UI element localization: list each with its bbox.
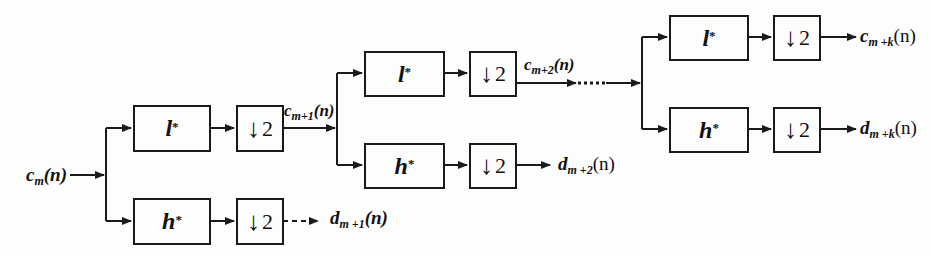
approx-output-label-k: cm +k(n) [860,26,916,48]
conjugate-mark: * [405,64,412,80]
label-var: c [524,55,532,74]
label-var: d [558,153,568,174]
filter-symbol: h [395,153,408,180]
lowpass-filter-box-k: l* [669,15,749,61]
downsample-factor: 2 [799,117,810,143]
lowpass-filter-box-2: l* [364,51,445,97]
label-arg: (n) [554,55,575,74]
down-arrow-icon: ↓ [247,114,260,144]
label-arg: (n) [894,25,916,46]
highpass-filter-box-1: h* [133,198,211,245]
downsample-box-low-2: ↓2 [469,51,517,97]
label-arg: (n) [314,101,335,120]
approx-output-label-1: cm+1(n) [284,102,335,122]
conjugate-mark: * [709,28,716,44]
filter-bank-diagram: cm(n) l* ↓2 h* ↓2 cm+1(n) dm +1(n) l* ↓2… [0,0,933,255]
filter-symbol: l [165,115,172,142]
downsample-factor: 2 [262,209,273,235]
downsample-factor: 2 [799,25,810,51]
downsample-box-low-k: ↓2 [773,15,821,61]
down-arrow-icon: ↓ [784,115,797,145]
conjugate-mark: * [172,119,179,135]
label-arg: (n) [593,153,615,174]
filter-symbol: h [162,208,175,235]
downsample-factor: 2 [262,116,273,142]
label-sub: m+2 [532,63,554,77]
highpass-filter-box-k: h* [669,107,749,153]
label-var: d [860,117,870,138]
label-sub: m +k [870,127,895,141]
conjugate-mark: * [408,156,415,172]
label-var: d [330,207,340,228]
filter-symbol: l [702,25,709,52]
conjugate-mark: * [712,120,719,136]
label-arg: (n) [365,207,388,228]
downsample-box-low-1: ↓2 [236,105,284,152]
filter-symbol: h [699,117,712,144]
conjugate-mark: * [175,212,182,228]
down-arrow-icon: ↓ [480,59,493,89]
label-sub: m+1 [292,109,314,123]
downsample-box-high-1: ↓2 [236,198,284,245]
detail-output-label-2: dm +2(n) [558,154,615,176]
filter-symbol: l [398,61,405,88]
highpass-filter-box-2: h* [364,143,445,189]
label-sub: m +2 [568,163,593,177]
down-arrow-icon: ↓ [784,23,797,53]
detail-output-label-1: dm +1(n) [330,208,388,230]
downsample-factor: 2 [495,61,506,87]
detail-output-label-k: dm +k(n) [860,118,917,140]
downsample-factor: 2 [495,153,506,179]
label-arg: (n) [44,164,67,185]
input-signal-label: cm(n) [26,165,67,187]
approx-output-label-2: cm+2(n) [524,56,575,76]
label-arg: (n) [895,117,917,138]
label-var: c [284,101,292,120]
lowpass-filter-box-1: l* [133,105,211,152]
label-sub: m +1 [340,217,365,231]
downsample-box-high-k: ↓2 [773,107,821,153]
label-sub: m [34,174,43,188]
downsample-box-high-2: ↓2 [469,143,517,189]
label-sub: m +k [868,35,893,49]
down-arrow-icon: ↓ [247,207,260,237]
down-arrow-icon: ↓ [480,151,493,181]
